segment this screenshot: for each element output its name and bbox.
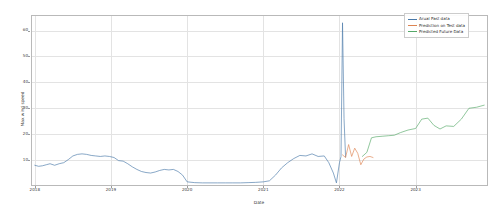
x-tick-label: 2019 [106,188,116,192]
x-tick-label: 2023 [410,188,420,192]
y-tick-mark [28,108,30,109]
y-tick-mark [28,134,30,135]
x-tick-mark [187,186,188,188]
x-tick-mark [416,186,417,188]
legend-item-label: Predicted Future Data [419,30,463,34]
y-tick-mark [28,160,30,161]
y-tick-mark [28,82,30,83]
x-tick-mark [111,186,112,188]
legend-color-swatch [408,25,417,26]
legend-item: Predicted Future Data [408,29,466,35]
legend-color-swatch [408,19,417,20]
x-tick-label: 2018 [30,188,40,192]
y-tick-label: 20 [0,132,31,136]
y-tick-label: 60 [0,28,31,32]
x-tick-label: 2020 [182,188,192,192]
y-tick-label: 30 [0,106,31,110]
x-tick-label: 2022 [334,188,344,192]
y-tick-label: 40 [0,80,31,84]
x-axis-label: Date [254,200,264,205]
plot-frame [31,15,488,186]
x-tick-mark [35,186,36,188]
y-tick-mark [28,31,30,32]
x-tick-mark [339,186,340,188]
legend-color-swatch [408,31,417,32]
legend-item-label: Prediction on Test data [419,24,465,28]
y-tick-label: 10 [0,158,31,162]
y-tick-label: 50 [0,54,31,58]
y-tick-mark [28,56,30,57]
chart-legend: Arual Past dataPrediction on Test dataPr… [404,13,469,38]
chart-figure: Max wind speed 102030405060 201820192020… [0,0,488,217]
legend-item-label: Arual Past data [419,17,450,21]
x-tick-label: 2021 [258,188,268,192]
x-tick-mark [263,186,264,188]
